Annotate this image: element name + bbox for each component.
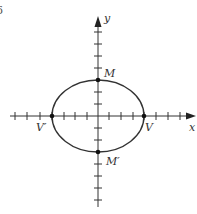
label-m: M — [103, 67, 116, 80]
point-m — [96, 78, 101, 83]
x-axis-arrow-icon — [186, 113, 196, 120]
label-v: V — [145, 121, 154, 134]
label-m-prime: M′ — [105, 155, 120, 168]
x-axis-label: x — [189, 121, 196, 134]
point-v — [142, 114, 147, 119]
figure-number: 6 — [0, 4, 3, 17]
y-axis-label: y — [103, 12, 111, 25]
ellipse-diagram: 6 x y M — [0, 0, 197, 214]
point-v-prime — [50, 114, 55, 119]
y-axis-arrow-icon — [95, 16, 102, 27]
label-v-prime: V′ — [36, 121, 47, 134]
point-m-prime — [96, 150, 101, 155]
